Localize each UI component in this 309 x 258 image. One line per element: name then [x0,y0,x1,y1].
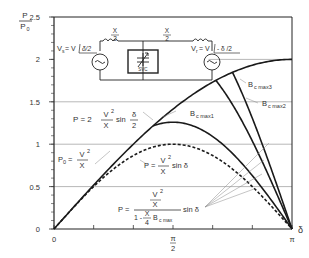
svg-text:sin: sin [116,115,126,124]
svg-text:X: X [165,27,170,34]
svg-text:c max1: c max1 [196,113,214,119]
label-bc-max1: B c max1 [190,109,214,119]
svg-text:r: r [196,48,198,54]
svg-text:2: 2 [111,108,114,114]
y-tick-label: 2 [36,55,40,64]
svg-text:V: V [160,156,165,165]
svg-text:δ/2: δ/2 [82,45,91,52]
svg-text:2: 2 [113,35,117,42]
curve-bc-max1 [153,122,292,229]
y-axis-ticks: 00.511.522.5 [30,13,54,234]
svg-text:sin δ: sin δ [183,205,199,214]
svg-text:1 -: 1 - [134,214,143,221]
svg-text:c max: c max [159,217,173,223]
annotation-p-midpoint: P = 2 V 2 X sin δ 2 [73,108,138,130]
svg-text:P: P [20,22,25,31]
annotation-p0: P 0 = V 2 X [58,148,90,170]
svg-text:- δ /2: - δ /2 [217,45,232,52]
svg-text:2: 2 [165,35,169,42]
curve-bc-max3 [232,72,292,229]
svg-text:B: B [248,80,253,89]
power-angle-chart: P P 0 00.511.522.5 0π2π P = 2 V 2 X sin [0,0,309,258]
svg-text:V: V [152,190,157,199]
svg-text:4: 4 [145,219,149,226]
svg-text:X: X [113,27,118,34]
inductor-right-icon [193,39,208,41]
svg-text:P = 2: P = 2 [73,115,92,124]
svg-text:2: 2 [168,154,171,160]
annotation-p-uncompensated: P = V 2 X sin δ [144,154,188,176]
svg-text:B: B [262,99,267,108]
y-tick-label: 0 [36,225,40,234]
label-bc-max2: B c max2 [262,99,286,109]
svg-text:SVC: SVC [138,67,148,72]
y-tick-label: 1 [36,140,40,149]
svg-text:2: 2 [132,121,136,130]
svg-text:=: = [68,155,73,164]
x-axis-label: δ [298,225,303,235]
x-tick-label: π [289,235,294,244]
svg-text:X: X [160,167,165,176]
y-tick-label: 2.5 [30,13,40,22]
y-tick-label: 1.5 [30,98,40,107]
svg-text:B: B [190,109,195,118]
svg-text:P =: P = [144,161,156,170]
svg-text:B: B [153,214,158,221]
svg-text:X: X [79,161,84,170]
svg-text:X: X [152,200,157,209]
svg-text:sin δ: sin δ [172,161,188,170]
svg-text:c max2: c max2 [268,103,286,109]
svg-text:0: 0 [63,159,66,165]
y-tick-label: 0.5 [30,183,40,192]
svg-text:X: X [103,121,108,130]
leader-lines [95,79,269,207]
annotation-p-compensated: P = V 2 X 1 - X 4 B c max sin δ [118,188,199,226]
svg-text:2: 2 [160,188,163,194]
svg-text:P =: P = [118,205,130,214]
svg-text:V: V [103,110,108,119]
svg-text:V: V [79,150,84,159]
svg-text:= V: = V [199,45,210,52]
svg-text:δ: δ [132,110,136,119]
label-bc-max3: B c max3 [248,80,272,90]
svg-text:0: 0 [26,26,29,32]
svg-text:c max3: c max3 [254,84,272,90]
svg-text:X: X [145,210,150,217]
svg-text:2: 2 [171,244,175,253]
svg-text:2: 2 [87,148,90,154]
svg-text:= V: = V [65,45,76,52]
svg-text:P: P [22,11,27,20]
x-tick-label: 0 [52,235,56,244]
x-tick-label: π [170,234,175,243]
